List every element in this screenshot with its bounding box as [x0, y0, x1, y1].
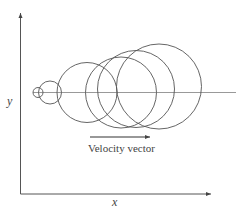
diagram-canvas [0, 0, 247, 213]
velocity-vector-label: Velocity vector [88, 142, 155, 154]
wavefront-circles [33, 44, 202, 129]
wavefront-circle-5 [98, 51, 175, 128]
wavefront-circle-6 [117, 44, 202, 129]
x-axis-label: x [112, 195, 117, 210]
y-axis-label: y [7, 94, 12, 109]
